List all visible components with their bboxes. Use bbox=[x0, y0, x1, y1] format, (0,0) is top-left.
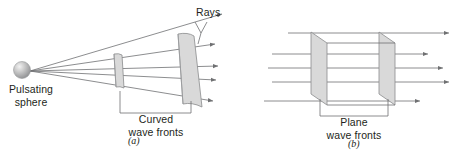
curved-wave-fronts-label: Curved wave fronts bbox=[110, 113, 202, 138]
wave-fronts-figure: Pulsating sphere Rays Curved wave fronts… bbox=[0, 0, 467, 158]
pulsating-sphere-label-line1: Pulsating bbox=[0, 83, 62, 96]
panel-b-group bbox=[264, 32, 449, 116]
sphere-icon bbox=[14, 62, 31, 79]
plane-wave-fronts-label-line1: Plane bbox=[308, 116, 400, 129]
curved-wave-fronts-label-line2: wave fronts bbox=[110, 126, 202, 139]
rays-label: Rays bbox=[196, 6, 220, 19]
pulsating-sphere-label: Pulsating sphere bbox=[0, 83, 62, 108]
panel-b-id: (b) bbox=[348, 138, 360, 149]
panel-a-id: (a) bbox=[128, 135, 140, 146]
rays-leader-right bbox=[201, 22, 207, 33]
rays-leader bbox=[195, 22, 207, 44]
curved-wave-fronts-label-line1: Curved bbox=[110, 113, 202, 126]
pulsating-sphere-label-line2: sphere bbox=[0, 96, 62, 109]
rays-leader-left bbox=[195, 22, 201, 33]
plane-wavefront-bracket bbox=[320, 99, 388, 116]
wavefront-a-near bbox=[114, 54, 124, 88]
curved-wavefront-bracket bbox=[120, 91, 191, 113]
rays-leader-stem bbox=[198, 33, 201, 44]
wavefront-b-near bbox=[311, 32, 327, 105]
wavefront-b-near-face bbox=[311, 32, 327, 105]
